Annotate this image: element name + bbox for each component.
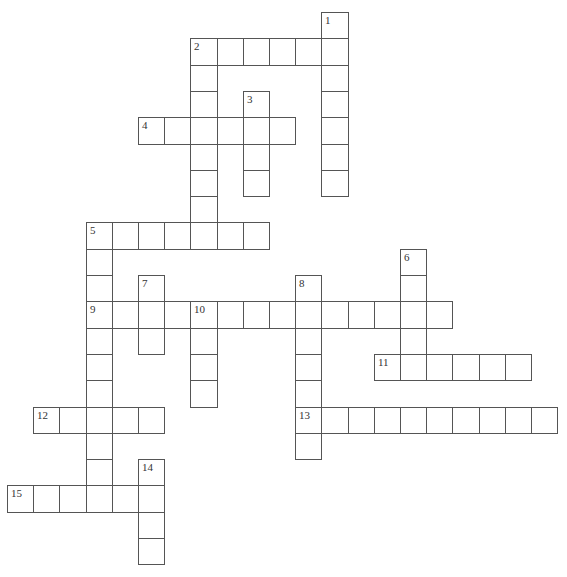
crossword-cell[interactable] — [243, 170, 270, 197]
crossword-cell[interactable] — [138, 407, 165, 434]
crossword-cell[interactable] — [86, 459, 113, 486]
crossword-cell[interactable] — [295, 38, 322, 66]
crossword-cell[interactable] — [138, 301, 165, 329]
crossword-cell[interactable] — [479, 407, 506, 434]
crossword-cell[interactable] — [531, 407, 558, 434]
crossword-cell[interactable]: 1 — [321, 12, 349, 39]
clue-number: 6 — [404, 252, 410, 263]
crossword-cell[interactable] — [321, 38, 349, 66]
crossword-cell[interactable] — [321, 65, 349, 92]
crossword-cell[interactable] — [295, 354, 322, 381]
crossword-cell[interactable] — [295, 433, 322, 460]
crossword-cell[interactable] — [217, 117, 244, 145]
crossword-cell[interactable] — [269, 301, 296, 329]
crossword-cell[interactable]: 2 — [190, 38, 218, 66]
crossword-cell[interactable]: 5 — [86, 222, 113, 250]
crossword-cell[interactable] — [86, 380, 113, 408]
crossword-cell[interactable] — [190, 65, 218, 92]
crossword-cell[interactable]: 6 — [400, 249, 427, 276]
crossword-cell[interactable] — [295, 380, 322, 408]
crossword-cell[interactable]: 13 — [295, 407, 322, 434]
crossword-cell[interactable]: 7 — [138, 275, 165, 302]
crossword-cell[interactable] — [243, 222, 270, 250]
crossword-cell[interactable] — [505, 407, 532, 434]
crossword-cell[interactable] — [164, 301, 191, 329]
crossword-cell[interactable] — [374, 301, 401, 329]
crossword-cell[interactable] — [164, 222, 191, 250]
crossword-cell[interactable] — [269, 117, 296, 145]
crossword-cell[interactable] — [321, 144, 349, 171]
crossword-cell[interactable]: 4 — [138, 117, 165, 145]
crossword-cell[interactable] — [86, 433, 113, 460]
crossword-cell[interactable] — [321, 301, 349, 329]
crossword-cell[interactable] — [243, 144, 270, 171]
crossword-cell[interactable] — [321, 117, 349, 145]
crossword-cell[interactable]: 10 — [190, 301, 218, 329]
crossword-cell[interactable] — [86, 249, 113, 276]
crossword-cell[interactable] — [190, 144, 218, 171]
crossword-cell[interactable]: 15 — [7, 485, 34, 513]
crossword-cell[interactable] — [59, 407, 87, 434]
crossword-cell[interactable]: 11 — [374, 354, 401, 381]
crossword-cell[interactable] — [400, 275, 427, 302]
crossword-cell[interactable] — [400, 354, 427, 381]
crossword-cell[interactable] — [190, 222, 218, 250]
crossword-cell[interactable] — [190, 117, 218, 145]
crossword-cell[interactable] — [321, 407, 349, 434]
crossword-cell[interactable] — [112, 222, 139, 250]
crossword-cell[interactable] — [190, 91, 218, 118]
crossword-cell[interactable] — [138, 222, 165, 250]
crossword-cell[interactable] — [86, 485, 113, 513]
crossword-cell[interactable] — [426, 407, 453, 434]
crossword-cell[interactable] — [400, 301, 427, 329]
crossword-cell[interactable] — [217, 222, 244, 250]
crossword-cell[interactable] — [348, 407, 375, 434]
crossword-cell[interactable] — [505, 354, 532, 381]
crossword-cell[interactable] — [243, 38, 270, 66]
crossword-cell[interactable] — [190, 380, 218, 408]
crossword-cell[interactable] — [452, 354, 480, 381]
crossword-cell[interactable] — [138, 328, 165, 355]
crossword-cell[interactable] — [479, 354, 506, 381]
crossword-cell[interactable] — [164, 117, 191, 145]
crossword-cell[interactable] — [138, 512, 165, 539]
crossword-cell[interactable] — [452, 407, 480, 434]
crossword-cell[interactable] — [243, 301, 270, 329]
crossword-cell[interactable]: 3 — [243, 91, 270, 118]
crossword-cell[interactable] — [295, 301, 322, 329]
crossword-cell[interactable] — [86, 275, 113, 302]
crossword-cell[interactable] — [190, 328, 218, 355]
crossword-cell[interactable] — [190, 196, 218, 223]
crossword-cell[interactable] — [269, 38, 296, 66]
crossword-cell[interactable] — [86, 407, 113, 434]
crossword-cell[interactable] — [321, 170, 349, 197]
crossword-cell[interactable]: 9 — [86, 301, 113, 329]
crossword-cell[interactable] — [112, 485, 139, 513]
crossword-cell[interactable] — [400, 407, 427, 434]
crossword-cell[interactable] — [190, 170, 218, 197]
crossword-cell[interactable] — [243, 117, 270, 145]
crossword-cell[interactable] — [217, 38, 244, 66]
crossword-cell[interactable] — [86, 354, 113, 381]
crossword-cell[interactable] — [348, 301, 375, 329]
crossword-cell[interactable]: 8 — [295, 275, 322, 302]
crossword-cell[interactable] — [374, 407, 401, 434]
crossword-cell[interactable] — [33, 485, 60, 513]
crossword-cell[interactable] — [217, 301, 244, 329]
crossword-cell[interactable] — [190, 354, 218, 381]
crossword-cell[interactable] — [138, 538, 165, 565]
crossword-cell[interactable] — [321, 91, 349, 118]
crossword-cell[interactable] — [86, 328, 113, 355]
clue-number: 8 — [299, 278, 305, 289]
crossword-cell[interactable]: 14 — [138, 459, 165, 486]
crossword-cell[interactable] — [59, 485, 87, 513]
crossword-cell[interactable] — [426, 301, 453, 329]
crossword-cell[interactable] — [295, 328, 322, 355]
crossword-cell[interactable] — [400, 328, 427, 355]
crossword-cell[interactable] — [426, 354, 453, 381]
crossword-cell[interactable] — [112, 407, 139, 434]
clue-number: 5 — [90, 225, 96, 236]
crossword-cell[interactable]: 12 — [33, 407, 60, 434]
crossword-cell[interactable] — [138, 485, 165, 513]
crossword-cell[interactable] — [112, 301, 139, 329]
